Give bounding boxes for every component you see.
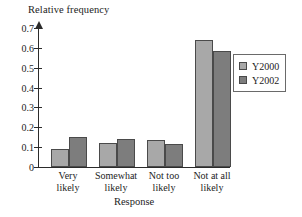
- y-tick-mark: [34, 167, 42, 168]
- plot-area: 00.10.20.30.40.50.60.7: [38, 22, 230, 167]
- y-tick-label: 0.5: [22, 62, 35, 73]
- bar-group: [195, 22, 231, 167]
- y-tick-label: 0.6: [22, 42, 35, 53]
- bar[interactable]: [117, 139, 135, 167]
- legend-label: Y2000: [252, 61, 279, 72]
- legend: Y2000 Y2002: [233, 54, 286, 92]
- legend-swatch-y2002: [239, 76, 247, 84]
- bar[interactable]: [213, 51, 231, 167]
- x-axis-line: [38, 167, 230, 168]
- y-tick-label: 0.2: [22, 122, 35, 133]
- y-axis-label: Relative frequency: [28, 4, 109, 15]
- bar[interactable]: [99, 143, 117, 167]
- bar[interactable]: [69, 137, 87, 167]
- legend-item[interactable]: Y2002: [239, 73, 279, 87]
- y-tick-label: 0.4: [22, 82, 35, 93]
- bar-chart: Relative frequency 00.10.20.30.40.50.60.…: [0, 0, 302, 217]
- bar[interactable]: [195, 40, 213, 167]
- legend-swatch-y2000: [239, 62, 247, 70]
- bar-group: [51, 22, 87, 167]
- bars-layer: [39, 22, 230, 167]
- bar-group: [147, 22, 183, 167]
- bar[interactable]: [51, 149, 69, 167]
- y-tick-label: 0.3: [22, 102, 35, 113]
- bar[interactable]: [147, 140, 165, 167]
- x-category-label: Not at alllikely: [172, 170, 252, 193]
- legend-item[interactable]: Y2000: [239, 59, 279, 73]
- y-tick-label: 0.7: [22, 22, 35, 33]
- legend-label: Y2002: [252, 75, 279, 86]
- bar-group: [99, 22, 135, 167]
- bar[interactable]: [165, 144, 183, 167]
- x-axis-label: Response: [38, 196, 230, 207]
- y-tick-label: 0.1: [22, 142, 35, 153]
